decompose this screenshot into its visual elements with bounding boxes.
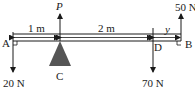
label-d: D: [154, 41, 162, 53]
force-label-b: 50 N: [175, 1, 195, 13]
label-b: B: [185, 38, 192, 50]
force-label-a: 20 N: [3, 77, 25, 89]
beam-diagram: A B C D 20 N P 70 N 50 N 1 m 2 m y: [0, 0, 195, 93]
dimension-label-ac: 1 m: [28, 22, 45, 34]
force-label-p: P: [55, 0, 63, 12]
support-c: [49, 41, 71, 66]
label-c: C: [56, 70, 63, 82]
force-label-d: 70 N: [142, 77, 164, 89]
label-a: A: [2, 37, 10, 49]
right-angle-a: [13, 41, 17, 45]
dimension-label-cd: 2 m: [98, 22, 115, 34]
right-angle-b: [177, 41, 181, 45]
dimension-label-db: y: [164, 23, 170, 35]
